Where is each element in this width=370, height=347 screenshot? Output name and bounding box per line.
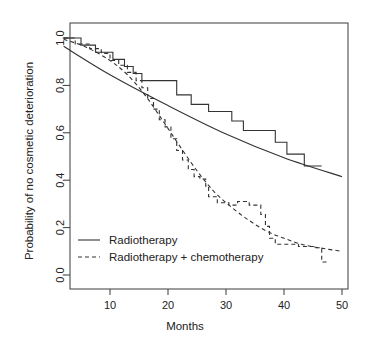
y-tick-label: 0.4 [54,173,66,188]
legend-label: Radiotherapy + chemotherapy [109,251,264,263]
x-tick-label: 40 [278,299,290,311]
x-axis-label: Months [0,320,370,332]
y-tick-label: 0.8 [54,78,66,93]
x-tick-label: 10 [104,299,116,311]
legend-label: Radiotherapy [109,234,178,246]
plot-canvas: 1020304050 0.00.20.40.60.81.0 Radiothera… [0,0,370,347]
survival-chart-figure: 1020304050 0.00.20.40.60.81.0 Radiothera… [0,0,370,347]
x-tick-label: 20 [162,299,174,311]
y-tick-label: 0.6 [54,125,66,140]
y-tick-label: 0.2 [54,220,66,235]
y-axis-label: Probability of no cosmetic deterioration [23,36,35,286]
x-tick-label: 30 [220,299,232,311]
x-tick-label: 50 [336,299,348,311]
y-tick-label: 0.0 [54,267,66,282]
